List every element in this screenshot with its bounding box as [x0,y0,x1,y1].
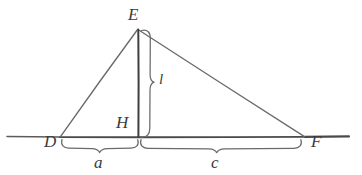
vertex-label-F: F [311,133,321,150]
segment-c-label: c [211,154,219,171]
geometry-figure: D E F H l a c [0,0,362,175]
brace-altitude [141,30,154,137]
vertex-label-E: E [128,6,138,23]
vertex-label-H: H [116,114,128,131]
altitude-length-label: l [159,72,163,87]
brace-a [62,140,139,153]
vertex-label-D: D [44,133,56,150]
brace-c [141,140,302,153]
side-EF [140,31,305,137]
segment-a-label: a [94,154,103,171]
